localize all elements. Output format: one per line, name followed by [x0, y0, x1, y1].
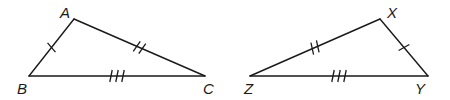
- side-xz: [250, 19, 380, 76]
- vertex-label-y: Y: [415, 80, 426, 97]
- triangle-abc: ABC: [17, 4, 214, 97]
- triangle-xyz: XYZ: [243, 4, 428, 97]
- congruent-triangles-diagram: ABCXYZ: [0, 0, 450, 100]
- vertex-label-b: B: [17, 80, 27, 97]
- vertex-label-z: Z: [243, 80, 254, 97]
- side-xy-tick-mark: [399, 45, 410, 51]
- vertex-label-a: A: [59, 4, 70, 21]
- diagram-canvas: ABCXYZ: [0, 0, 450, 100]
- vertex-label-x: X: [386, 4, 398, 21]
- vertex-label-c: C: [203, 80, 214, 97]
- side-ac-tick-mark: [139, 44, 146, 54]
- side-ac: [74, 19, 205, 76]
- side-ac-tick-mark: [133, 41, 140, 51]
